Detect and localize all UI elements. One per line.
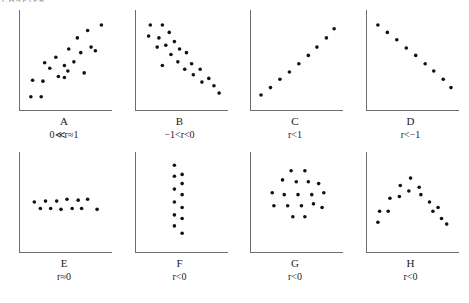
panel-formula-A: 0≪r≈1	[14, 129, 114, 141]
panel-formula-H: r<0	[361, 271, 461, 283]
panel-C: C r<1	[245, 8, 354, 141]
points-A	[14, 8, 114, 114]
plot-area-H	[361, 150, 461, 256]
points-B	[130, 8, 230, 114]
plot-area-E	[14, 150, 114, 256]
panel-label-C: C	[245, 115, 345, 128]
panel-formula-D: r<−1	[361, 129, 461, 141]
panel-label-E: E	[14, 257, 114, 270]
points-G	[245, 150, 345, 256]
plot-area-G	[245, 150, 345, 256]
panel-E: E r≈0	[14, 150, 123, 283]
panel-label-D: D	[361, 115, 461, 128]
panel-formula-F: r<0	[130, 271, 230, 283]
points-F	[130, 150, 230, 256]
panel-H: H r<0	[361, 150, 469, 283]
scatter-panel-grid: A 0≪r≈1 B −1<r<0 C r<1	[0, 8, 469, 283]
panel-A: A 0≪r≈1	[14, 8, 123, 141]
panel-row-bottom: E r≈0 F r<0 G r<0	[0, 150, 469, 283]
panel-label-G: G	[245, 257, 345, 270]
panel-formula-C: r<1	[245, 129, 345, 141]
plot-area-A	[14, 8, 114, 114]
points-H	[361, 150, 461, 256]
panel-F: F r<0	[130, 150, 239, 283]
plot-area-C	[245, 8, 345, 114]
clipped-header-text: CHAPTER	[2, 0, 45, 2]
panel-D: D r<−1	[361, 8, 469, 141]
panel-formula-G: r<0	[245, 271, 345, 283]
points-C	[245, 8, 345, 114]
panel-G: G r<0	[245, 150, 354, 283]
points-D	[361, 8, 461, 114]
panel-label-H: H	[361, 257, 461, 270]
points-E	[14, 150, 114, 256]
panel-formula-B: −1<r<0	[130, 129, 230, 141]
panel-row-top: A 0≪r≈1 B −1<r<0 C r<1	[0, 8, 469, 141]
figure-sheet: CHAPTER A 0≪r≈1 B −1<r<0	[0, 0, 469, 303]
panel-label-B: B	[130, 115, 230, 128]
plot-area-F	[130, 150, 230, 256]
panel-label-F: F	[130, 257, 230, 270]
plot-area-B	[130, 8, 230, 114]
plot-area-D	[361, 8, 461, 114]
panel-B: B −1<r<0	[130, 8, 239, 141]
panel-label-A: A	[14, 115, 114, 128]
panel-formula-E: r≈0	[14, 271, 114, 283]
